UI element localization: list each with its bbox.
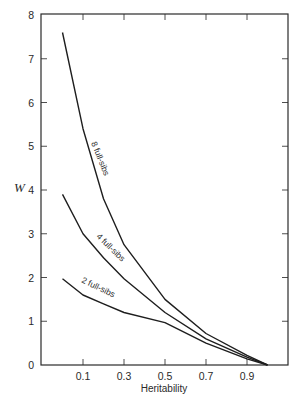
x-tick-label: 0.5	[158, 370, 173, 382]
y-tick-label: 0	[28, 359, 34, 371]
x-tick-label: 0.3	[117, 370, 132, 382]
x-tick-label: 0.7	[199, 370, 214, 382]
axis-tick-labels: 0.10.30.50.70.9012345678	[28, 9, 254, 382]
y-tick-label: 3	[28, 228, 34, 240]
heritability-chart: 0.10.30.50.70.9012345678 W Heritability …	[0, 0, 302, 401]
curve-8-full-sibs	[63, 33, 268, 366]
y-tick-label: 5	[28, 140, 34, 152]
curves	[63, 33, 268, 366]
y-tick-label: 6	[28, 97, 34, 109]
y-tick-label: 4	[28, 184, 34, 196]
x-tick-label: 0.9	[240, 370, 255, 382]
y-tick-label: 7	[28, 53, 34, 65]
x-axis-label: Heritability	[141, 383, 188, 394]
curve-label-4-full-sibs: 4 full-sibs	[95, 231, 128, 263]
curve-label-8-full-sibs: 8 full-sibs	[89, 140, 112, 177]
x-tick-label: 0.1	[76, 370, 91, 382]
y-tick-label: 2	[28, 272, 34, 284]
y-axis-label: W	[14, 180, 26, 195]
y-tick-label: 8	[28, 9, 34, 21]
y-tick-label: 1	[28, 315, 34, 327]
